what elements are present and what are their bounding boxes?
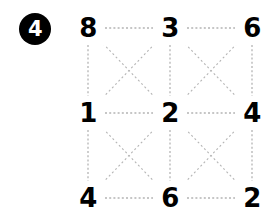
grid-edge-diagonal-r1c1-r2c0 (100, 125, 158, 186)
grid-node-label: 6 (243, 15, 261, 41)
grid-node-label: 6 (161, 185, 179, 211)
grid-node-label: 8 (79, 15, 97, 41)
grid-node-r1c0: 1 (71, 96, 105, 130)
puzzle-figure: 4 836124462 (0, 0, 275, 221)
grid-edge-diagonal-r1c2-r2c1 (182, 125, 240, 186)
grid-node-r0c0: 8 (71, 11, 105, 45)
grid-node-label: 2 (243, 185, 261, 211)
grid-node-r2c0: 4 (71, 181, 105, 215)
grid-node-label: 2 (161, 100, 179, 126)
grid-node-r2c2: 2 (235, 181, 269, 215)
grid-node-label: 4 (243, 100, 261, 126)
grid-node-label: 4 (79, 185, 97, 211)
grid-edge-diagonal-r0c2-r1c1 (182, 40, 240, 101)
grid-node-r1c1: 2 (153, 96, 187, 130)
grid-node-r1c2: 4 (235, 96, 269, 130)
grid-node-r0c2: 6 (235, 11, 269, 45)
grid-node-r0c1: 3 (153, 11, 187, 45)
grid-node-r2c1: 6 (153, 181, 187, 215)
grid-node-label: 3 (161, 15, 179, 41)
grid-edges-layer (0, 0, 275, 221)
grid-node-label: 1 (79, 100, 97, 126)
